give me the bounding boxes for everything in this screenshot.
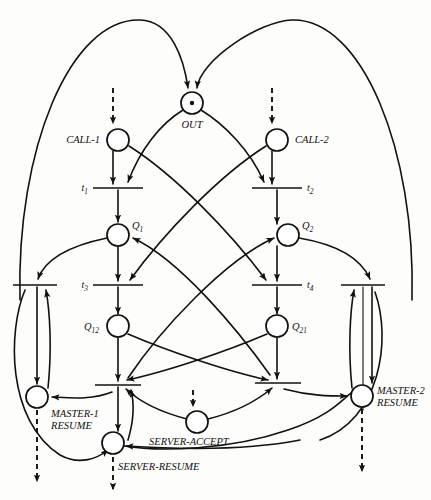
arc-t7-to-master1resume: [52, 392, 112, 398]
label-q1: Q1: [132, 220, 143, 234]
label-master2-resume-line2: RESUME: [376, 397, 418, 408]
label-q21: Q21: [292, 321, 307, 335]
label-q2-sub: 2: [310, 225, 314, 234]
petri-net-diagram: OUT CALL-1 CALL-2 Q1 Q2 Q12 Q21 t1 t2 t: [0, 0, 431, 500]
label-t1: t1: [82, 182, 88, 196]
arc-serveraccept-to-t8: [208, 388, 272, 419]
place-q2[interactable]: [277, 224, 299, 246]
label-t2-sub: 2: [310, 187, 314, 196]
label-q2: Q2: [302, 220, 314, 234]
token-out: [190, 101, 194, 105]
arc-serverresume-up-to-t7: [128, 390, 133, 440]
label-q21-sub: 21: [300, 326, 307, 335]
place-server-resume[interactable]: [102, 432, 124, 454]
arc-t8-to-master2resume: [284, 389, 347, 396]
lower-long-arcs: [14, 290, 382, 460]
label-q12-sub: 12: [92, 326, 100, 335]
place-call1[interactable]: [107, 129, 129, 151]
place-q12[interactable]: [107, 315, 129, 337]
labels-layer: OUT CALL-1 CALL-2 Q1 Q2 Q12 Q21 t1 t2 t: [50, 119, 427, 472]
label-master2-resume: MASTER-2 RESUME: [376, 385, 427, 408]
arc-call2-cross-to-t3: [130, 146, 266, 280]
label-t4-sub: 4: [310, 284, 314, 293]
arc-q12-down-to-t8: [128, 334, 268, 380]
label-t2: t2: [307, 182, 314, 196]
label-master1-resume-line2: RESUME: [50, 420, 92, 431]
place-master2-resume[interactable]: [351, 385, 373, 407]
label-t1-sub: 1: [84, 187, 88, 196]
arc-out-to-t1: [128, 110, 183, 182]
label-server-resume: SERVER-RESUME: [118, 461, 200, 472]
label-master1-resume: MASTER-1 RESUME: [50, 408, 101, 431]
label-q1-sub: 1: [140, 225, 144, 234]
place-q1[interactable]: [107, 224, 129, 246]
place-master1-resume[interactable]: [26, 386, 48, 408]
arc-q1-to-t5: [38, 238, 107, 279]
place-q21[interactable]: [266, 315, 288, 337]
label-master1-resume-line1: MASTER-1: [50, 408, 99, 419]
arc-outer-right-to-out: [197, 20, 412, 300]
label-q12: Q12: [84, 321, 99, 335]
transitions-layer: [13, 188, 385, 385]
label-out: OUT: [181, 119, 203, 130]
arc-t7-to-q2: [128, 238, 274, 378]
arc-master1resume-up-to-t5: [46, 290, 50, 388]
label-t3-sub: 3: [83, 284, 88, 293]
arc-master2resume-up-to-t6: [350, 290, 354, 388]
petri-net-canvas: OUT CALL-1 CALL-2 Q1 Q2 Q12 Q21 t1 t2 t: [0, 0, 431, 500]
label-call2: CALL-2: [295, 134, 330, 145]
label-t3: t3: [82, 279, 89, 293]
arc-q2-to-t6: [299, 238, 370, 279]
arc-t5-to-serverresume: [14, 290, 108, 460]
left-column-arcs: [37, 151, 118, 431]
arc-call1-cross-to-t4: [129, 146, 266, 280]
places-layer: [26, 92, 373, 454]
place-server-accept[interactable]: [186, 411, 208, 433]
place-call2[interactable]: [266, 129, 288, 151]
arc-serveraccept-to-t7: [126, 389, 187, 419]
q-cross-arcs: [38, 238, 370, 378]
label-t4: t4: [307, 279, 314, 293]
label-server-accept: SERVER-ACCEPT: [149, 436, 230, 447]
right-column-arcs: [272, 151, 372, 410]
arc-q21-down-to-t7: [127, 334, 267, 380]
label-call1: CALL-1: [66, 134, 100, 145]
arc-outer-left-to-out: [20, 20, 188, 300]
label-master2-resume-line1: MASTER-2: [376, 385, 426, 396]
